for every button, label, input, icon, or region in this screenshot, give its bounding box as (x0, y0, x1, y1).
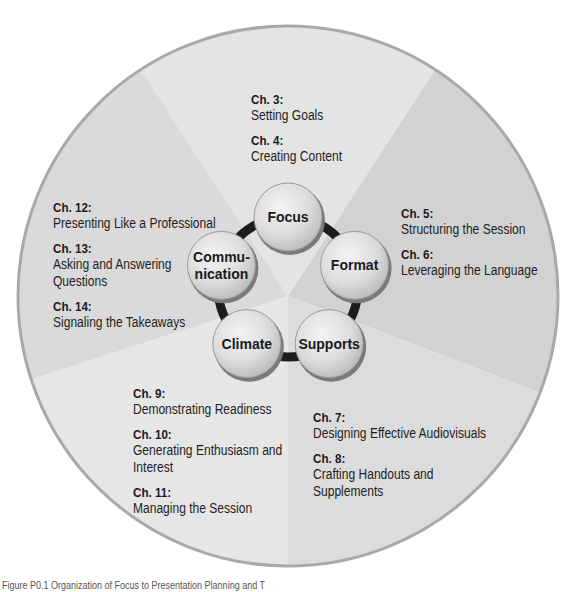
chapter-number: Ch. 14: (53, 299, 216, 314)
chapter-title: Designing Effective Audiovisuals (313, 425, 486, 442)
chapter-item: Ch. 3:Setting Goals (251, 92, 342, 124)
chapter-number: Ch. 13: (53, 241, 216, 256)
chapter-title: Generating Enthusiasm and (133, 442, 282, 459)
segment-text-communication: Ch. 12:Presenting Like a ProfessionalCh.… (53, 200, 216, 340)
chapter-title: Structuring the Session (401, 221, 538, 238)
chapter-number: Ch. 5: (401, 206, 538, 221)
chapter-title: Managing the Session (133, 500, 282, 517)
chapter-number: Ch. 4: (251, 133, 342, 148)
chapter-title: Setting Goals (251, 107, 342, 124)
chapter-item: Ch. 4:Creating Content (251, 133, 342, 165)
chapter-item: Ch. 14:Signaling the Takeaways (53, 299, 216, 331)
chapter-item: Ch. 13:Asking and AnsweringQuestions (53, 241, 216, 290)
chapter-item: Ch. 7:Designing Effective Audiovisuals (313, 410, 486, 442)
chapter-title: Creating Content (251, 148, 342, 165)
chapter-title: Demonstrating Readiness (133, 401, 282, 418)
segment-text-format: Ch. 5:Structuring the SessionCh. 6:Lever… (401, 206, 538, 288)
segment-text-supports: Ch. 7:Designing Effective AudiovisualsCh… (313, 410, 486, 509)
chapter-title: Supplements (313, 483, 486, 500)
chapter-number: Ch. 7: (313, 410, 486, 425)
chapter-number: Ch. 8: (313, 451, 486, 466)
chapter-item: Ch. 9:Demonstrating Readiness (133, 386, 282, 418)
chapter-number: Ch. 10: (133, 427, 282, 442)
chapter-number: Ch. 3: (251, 92, 342, 107)
chapter-title: Crafting Handouts and (313, 466, 486, 483)
chapter-title: Leveraging the Language (401, 262, 538, 279)
segment-text-climate: Ch. 9:Demonstrating ReadinessCh. 10:Gene… (133, 386, 282, 526)
chapter-item: Ch. 12:Presenting Like a Professional (53, 200, 216, 232)
chapter-item: Ch. 5:Structuring the Session (401, 206, 538, 238)
chapter-title: Asking and Answering (53, 256, 216, 273)
chapter-title: Signaling the Takeaways (53, 314, 216, 331)
chapter-number: Ch. 6: (401, 247, 538, 262)
chapter-number: Ch. 12: (53, 200, 216, 215)
chapter-item: Ch. 11:Managing the Session (133, 485, 282, 517)
node-label: Focus (267, 209, 308, 225)
chapter-item: Ch. 6:Leveraging the Language (401, 247, 538, 279)
chapter-number: Ch. 9: (133, 386, 282, 401)
chapter-title: Presenting Like a Professional (53, 215, 216, 232)
node-label: Climate (222, 336, 273, 352)
chapter-number: Ch. 11: (133, 485, 282, 500)
chapter-title: Questions (53, 273, 216, 290)
chapter-item: Ch. 8:Crafting Handouts andSupplements (313, 451, 486, 500)
node-label: Format (331, 257, 379, 273)
node-label: Supports (298, 336, 360, 352)
segment-text-focus: Ch. 3:Setting GoalsCh. 4:Creating Conten… (251, 92, 342, 174)
chapter-item: Ch. 10:Generating Enthusiasm andInterest (133, 427, 282, 476)
chapter-title: Interest (133, 459, 282, 476)
figure-caption: Figure P0.1 Organization of Focus to Pre… (2, 580, 265, 591)
